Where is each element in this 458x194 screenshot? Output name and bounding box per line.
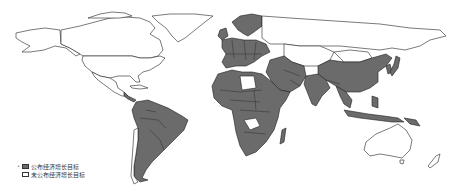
usa	[82, 56, 165, 82]
canada	[61, 17, 163, 58]
indonesia	[344, 110, 404, 122]
greenland	[152, 14, 213, 42]
oceania	[364, 118, 440, 168]
asia-shaded	[266, 54, 404, 122]
map-legend: • 公布经济增长目标 未公布经济增长目标	[17, 162, 85, 178]
new-zealand	[428, 154, 440, 168]
north-america	[16, 12, 213, 102]
north-asia	[262, 16, 446, 66]
tasmania	[400, 160, 404, 164]
uk	[218, 28, 228, 40]
legend-label-not-announced: 未公布经济增长目标	[31, 170, 85, 179]
canada-islands	[88, 12, 132, 18]
caribbean	[130, 85, 148, 89]
libya	[240, 76, 256, 90]
empty-swatch-icon	[22, 172, 29, 177]
papua	[404, 118, 420, 126]
australia	[364, 124, 412, 158]
south-america-shaded	[132, 100, 188, 182]
filled-swatch-icon	[22, 164, 29, 169]
central-america	[124, 92, 136, 102]
south-america	[131, 100, 188, 184]
philippines	[372, 96, 378, 108]
madagascar	[280, 128, 286, 144]
legend-item-not-announced: 未公布经济增长目标	[17, 170, 85, 178]
western-europe	[222, 38, 270, 68]
scandinavia	[232, 14, 262, 36]
bullet-icon: •	[17, 162, 21, 171]
